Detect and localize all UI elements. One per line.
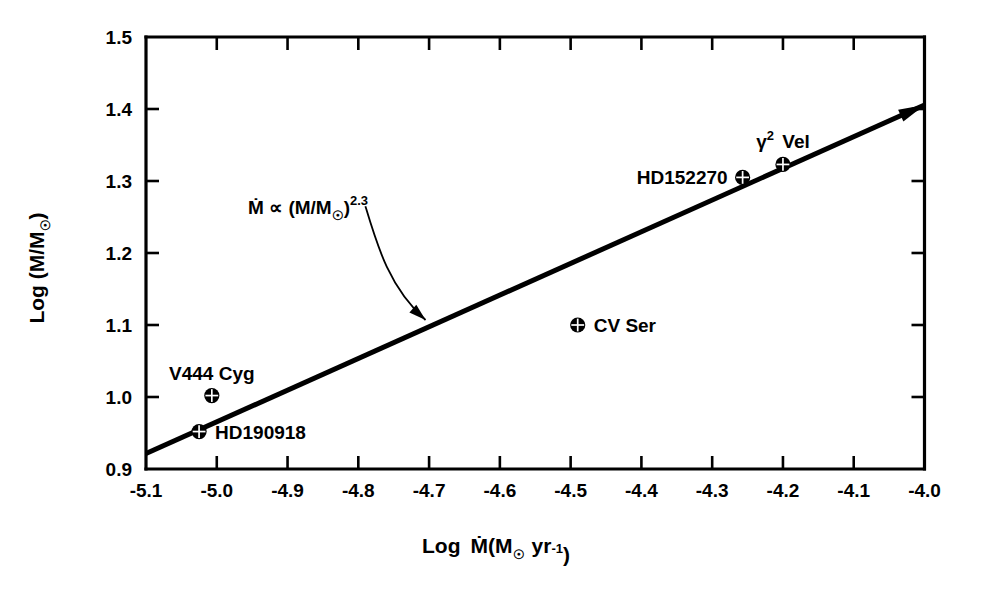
x-tick-label: -4.0 [908,480,941,501]
x-axis-title: LogṀ(M☉yr-1) [422,534,570,566]
fit-line-group [146,105,925,454]
y-axis-title-text: Log (M/M [25,231,48,323]
y-tick-label: 1.5 [106,27,133,48]
label-vel: Vel [777,131,810,152]
x-axis-title-mdot: Ṁ(M [471,534,513,557]
data-point-label: HD152270 [637,167,728,188]
x-tick-label: -4.9 [271,480,304,501]
y-tick-label: 1.3 [106,171,132,192]
fit-line [146,105,925,453]
x-axis-ticks-top [217,37,854,50]
y-tick-label: 1.2 [106,243,132,264]
y-tick-label: 1.4 [106,99,133,120]
data-point [570,317,585,332]
x-axis-ticks-bottom [217,456,854,469]
x-axis-title-prefix: Log [422,534,460,557]
x-axis-title-exp: -1 [551,541,563,556]
y-axis-ticks-right [912,109,925,397]
x-axis-title-sun: ☉ [513,547,525,562]
fit-line-arrowhead [898,105,924,122]
figure-container: -5.1-5.0-4.9-4.8-4.7-4.6-4.5-4.4-4.3-4.2… [0,0,992,600]
data-point [775,157,790,172]
x-axis-title-close: ) [563,543,570,566]
y-axis-title: Log (M/M☉) [25,212,53,323]
fit-law-text: Ṁ ∝ (M/M☉)2.3 [248,193,368,223]
x-tick-label: -4.7 [413,480,446,501]
y-axis-ticks-left [146,109,159,397]
x-tick-label: -4.3 [696,480,729,501]
x-tick-label: -4.6 [483,480,516,501]
data-point [191,424,206,439]
x-tick-label: -4.4 [625,480,658,501]
label-superscript: 2 [767,128,774,143]
data-point-labels: HD190918V444 CygCV SerHD152270γ2 Vel [169,128,810,442]
x-tick-label: -4.8 [342,480,375,501]
plot-frame [144,36,926,471]
y-tick-label: 0.9 [106,459,132,480]
data-point-label: HD190918 [215,422,306,443]
x-tick-label: -5.1 [130,480,163,501]
data-point-label: γ2 Vel [756,128,810,152]
x-tick-label: -4.1 [837,480,870,501]
x-axis-tick-labels: -5.1-5.0-4.9-4.8-4.7-4.6-4.5-4.4-4.3-4.2… [130,480,941,501]
data-point-label: V444 Cyg [169,363,255,384]
y-tick-label: 1.1 [106,315,133,336]
data-point [204,388,219,403]
y-tick-label: 1.0 [106,387,132,408]
fit-law-exponent: 2.3 [350,193,368,208]
y-axis-tick-labels: 0.91.01.11.21.31.41.5 [106,27,133,480]
fit-law-subscript: ☉ [332,208,344,223]
x-tick-label: -4.2 [767,480,800,501]
x-axis-title-yr: yr [532,534,552,557]
label-gamma: γ [756,131,767,152]
scatter-plot: -5.1-5.0-4.9-4.8-4.7-4.6-4.5-4.4-4.3-4.2… [0,0,992,600]
fit-law-annotation: Ṁ ∝ (M/M☉)2.3 [248,193,426,320]
y-axis-title-close: ) [25,212,48,219]
annotation-arrow-curve [365,206,425,320]
fit-law-base: Ṁ ∝ (M/M [248,197,332,218]
data-point-label: CV Ser [594,315,657,336]
y-axis-title-sun: ☉ [38,219,53,231]
x-tick-label: -5.0 [200,480,233,501]
x-tick-label: -4.5 [554,480,587,501]
data-point [735,170,750,185]
